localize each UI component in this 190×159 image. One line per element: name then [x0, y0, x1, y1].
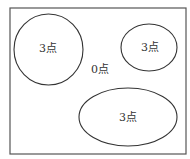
target-frame — [10, 8, 186, 154]
target-diagram: 3点 3点 3点 0点 — [0, 0, 190, 159]
label-outside: 0点 — [91, 63, 109, 76]
label-ellipse-bottom: 3点 — [119, 111, 137, 124]
label-circle-left: 3点 — [39, 42, 57, 55]
label-circle-right: 3点 — [141, 41, 159, 54]
